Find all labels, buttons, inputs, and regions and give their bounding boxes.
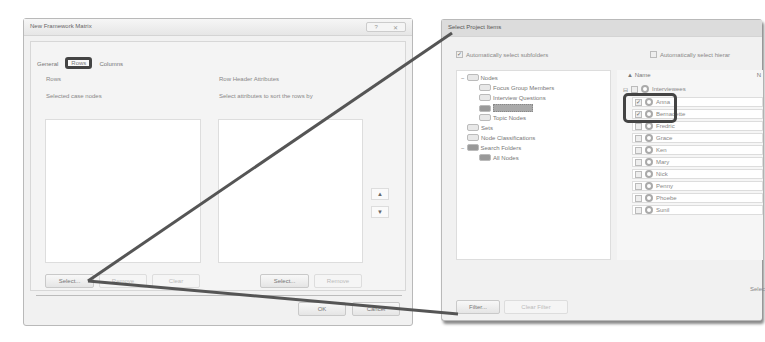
list-item-label: Grace [656,135,672,141]
list-item-label: Ken [656,147,667,153]
tab-general[interactable]: General [34,60,61,69]
expander-icon[interactable]: − [461,145,465,151]
case-icon [645,146,653,154]
select-attributes-button[interactable]: Select... [260,274,309,288]
filter-button[interactable]: Filter... [456,300,500,314]
auto-select-hierarchy[interactable]: Automatically select hierar [650,51,730,58]
tree-item-all-nodes[interactable]: All Nodes [479,154,519,161]
case-icon [645,194,653,202]
tree-item-label: Interviewees [493,104,533,112]
row-checkbox[interactable] [635,159,642,166]
folder-icon [479,84,491,91]
auto-select-hierarchy-label: Automatically select hierar [660,52,730,58]
tree-item-search-folders[interactable]: − Search Folders [461,144,521,151]
list-header: ▲ Name N [627,72,763,82]
list-item-grace[interactable]: Grace [632,133,763,143]
row-checkbox[interactable] [635,147,642,154]
expander-icon[interactable]: ⊟ [623,86,628,93]
row-checkbox[interactable] [635,195,642,202]
folder-icon [467,144,479,151]
tree-item-node-classifications[interactable]: Node Classifications [467,134,535,141]
case-icon [645,122,653,130]
auto-select-hierarchy-checkbox[interactable] [650,51,657,58]
list-item-nick[interactable]: Nick [632,169,763,179]
select-case-nodes-button[interactable]: Select... [45,274,94,288]
move-down-button[interactable]: ▼ [371,206,389,218]
row-checkbox[interactable] [635,171,642,178]
folder-icon [467,74,479,81]
dialog-title: New Framework Matrix [30,23,92,29]
tree-item-focus-group-members[interactable]: Focus Group Members [479,84,554,91]
case-icon [645,206,653,214]
selected-case-nodes-list[interactable] [45,119,201,263]
new-framework-matrix-dialog: New Framework Matrix ? ✕ General Rows Co… [23,18,413,326]
row-checkbox[interactable] [635,207,642,214]
select-project-items-dialog: Select Project Items ✓ Automatically sel… [441,19,762,321]
status-text: Selec [750,286,765,292]
list-item-phoebe[interactable]: Phoebe [632,193,763,203]
list-item-label: Mary [656,159,669,165]
dialog-title: Select Project Items [448,24,501,30]
selected-case-nodes-label: Selected case nodes [46,93,102,99]
dialog-titlebar: New Framework Matrix ? ✕ [24,19,412,36]
tree-item-label: Node Classifications [481,135,535,141]
cancel-button[interactable]: Cancel [352,302,400,316]
sort-attributes-label: Select attributes to sort the rows by [219,93,313,99]
sort-attributes-list[interactable] [218,119,363,263]
tree-item-label: Interview Questions [493,95,546,101]
tab-rows[interactable]: Rows [65,57,92,69]
remove-case-nodes-button[interactable]: Remove [99,274,147,288]
tree-item-label: Sets [481,125,493,131]
case-icon [641,85,649,93]
case-icon [645,170,653,178]
close-icon[interactable]: ✕ [393,24,398,31]
tab-columns[interactable]: Columns [96,60,126,69]
list-item-label: Fredric [656,123,675,129]
folder-icon [479,105,491,112]
row-checkbox[interactable] [635,123,642,130]
row-checkbox[interactable] [635,135,642,142]
column-header-n[interactable]: N [757,72,761,78]
rows-section-label: Rows [46,76,61,82]
auto-select-subfolders[interactable]: ✓ Automatically select subfolders [456,51,548,58]
help-icon[interactable]: ? [374,24,377,30]
ok-button[interactable]: OK [298,302,346,316]
list-item-label: Phoebe [656,195,677,201]
clear-case-nodes-button[interactable]: Clear [152,274,200,288]
folder-icon [467,124,479,131]
tree-item-interviewees[interactable]: Interviewees [479,104,533,112]
list-item-label: Penny [656,183,673,189]
row-checkbox[interactable] [631,86,638,93]
folder-tree[interactable]: − Nodes Focus Group Members Interview Qu… [456,70,611,260]
list-item-ken[interactable]: Ken [632,145,763,155]
tree-item-label: All Nodes [493,155,519,161]
dialog-titlebar: Select Project Items [442,20,762,37]
list-item-penny[interactable]: Penny [632,181,763,191]
row-checkbox[interactable] [635,183,642,190]
folder-icon [479,114,491,121]
clear-filter-button[interactable]: Clear Filter [504,300,568,314]
tree-item-sets[interactable]: Sets [467,124,493,131]
folder-icon [467,134,479,141]
tree-item-label: Search Folders [481,145,522,151]
tree-item-interview-questions[interactable]: Interview Questions [479,94,546,101]
expander-icon[interactable]: − [461,75,465,81]
arrow-up-icon: ▲ [377,191,383,197]
sort-icon: ▲ [627,72,633,78]
list-item-label: Nick [656,171,668,177]
tab-strip: General Rows Columns [34,60,126,69]
tree-item-label: Topic Nodes [493,115,526,121]
move-up-button[interactable]: ▲ [371,188,389,200]
footer-divider [36,295,402,296]
list-item-mary[interactable]: Mary [632,157,763,167]
remove-attributes-button[interactable]: Remove [314,274,362,288]
auto-select-subfolders-label: Automatically select subfolders [466,52,548,58]
row-header-attributes-label: Row Header Attributes [219,76,279,82]
list-item-sunil[interactable]: Sunil [632,205,763,215]
tree-item-nodes[interactable]: − Nodes [461,74,498,81]
auto-select-subfolders-checkbox[interactable]: ✓ [456,51,463,58]
tree-item-topic-nodes[interactable]: Topic Nodes [479,114,526,121]
column-header-name[interactable]: Name [635,72,651,78]
list-item-label: Sunil [656,207,669,213]
tree-item-label: Nodes [481,75,498,81]
